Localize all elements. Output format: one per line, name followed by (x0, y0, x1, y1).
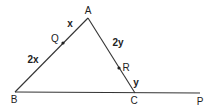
label-b: B (11, 94, 18, 105)
triangle-diagram: A B C P Q R x 2x 2y y (0, 0, 214, 111)
point-q-dot (61, 41, 64, 44)
line-bp (15, 92, 200, 93)
segment-label-rc: y (133, 77, 139, 88)
label-q: Q (51, 33, 59, 44)
label-a: A (85, 5, 92, 16)
label-c: C (130, 95, 137, 106)
side-ab (15, 18, 88, 92)
segment-label-aq: x (67, 18, 73, 29)
label-p: P (197, 96, 204, 107)
segment-label-ar: 2y (112, 37, 124, 48)
label-r: R (122, 62, 129, 73)
side-ac (88, 18, 135, 93)
point-r-dot (117, 66, 120, 69)
segment-label-qb: 2x (27, 54, 39, 65)
